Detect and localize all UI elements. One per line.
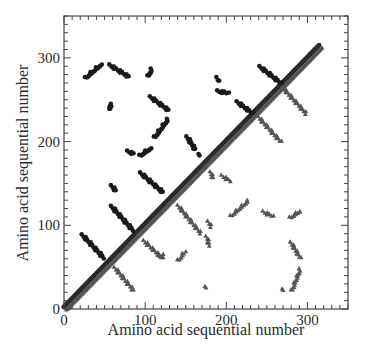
contact-point-circle	[279, 80, 284, 85]
plot-marks	[61, 43, 324, 312]
contact-point-circle	[192, 147, 197, 152]
contact-point-triangle	[245, 197, 250, 201]
contact-point-circle	[131, 151, 136, 156]
diagonal-point	[317, 43, 322, 48]
y-tick-label: 100	[38, 217, 61, 233]
y-tick-labels: 0100200300	[38, 50, 61, 317]
x-axis-label: Amino acid sequential number	[108, 321, 306, 339]
y-tick-label: 200	[38, 134, 61, 150]
contact-point-circle	[197, 153, 202, 158]
contact-point-triangle	[184, 249, 189, 253]
contact-point-circle	[160, 190, 165, 195]
contact-point-circle	[149, 146, 154, 151]
x-tick-label: 0	[60, 312, 68, 328]
contact-point-circle	[165, 117, 170, 122]
contact-point-circle	[108, 102, 113, 107]
contact-point-triangle	[161, 251, 166, 255]
contact-point-circle	[148, 66, 153, 71]
contact-point-circle	[113, 188, 118, 193]
contact-point-circle	[101, 256, 106, 261]
contact-point-triangle	[297, 266, 302, 270]
contact-point-circle	[217, 78, 222, 83]
contact-point-circle	[251, 110, 256, 115]
y-axis-label: Amino acid sequential number	[14, 64, 32, 262]
contact-map-chart: 0100200300 0100200300 Amino acid sequent…	[0, 0, 366, 358]
contact-point-circle	[100, 62, 105, 67]
contact-point-circle	[131, 229, 136, 234]
y-tick-label: 300	[38, 50, 61, 66]
y-tick-label: 0	[53, 301, 61, 317]
contact-point-circle	[166, 107, 171, 112]
contact-point-circle	[126, 74, 131, 79]
contact-point-circle	[227, 90, 232, 95]
